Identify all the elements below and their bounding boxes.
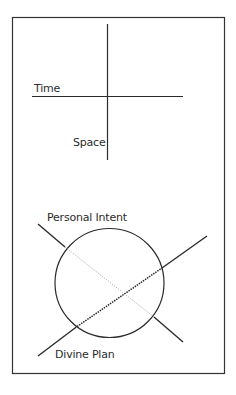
- divine-plan-line-outer-upper: [162, 236, 207, 268]
- divine-plan-label: Divine Plan: [55, 349, 115, 361]
- circle-shape: [55, 229, 164, 338]
- outer-border: [13, 18, 225, 374]
- divine-plan-line-inner-dotted: [75, 268, 162, 328]
- diagram-frame: Time Space Personal Intent Divine Plan: [0, 0, 236, 395]
- personal-intent-label: Personal Intent: [47, 212, 127, 224]
- time-label: Time: [34, 83, 60, 95]
- personal-intent-line-outer-lower: [154, 317, 183, 342]
- personal-intent-line-outer-upper: [38, 224, 65, 247]
- diagram-canvas: [0, 0, 236, 395]
- space-label: Space: [73, 137, 106, 149]
